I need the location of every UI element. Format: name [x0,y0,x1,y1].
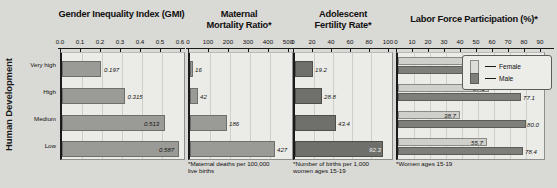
x-tick-label-mm-0: 0 [186,38,189,45]
panel-title-gmi: Gender Inequality Index (GMI) [58,9,185,20]
legend-swatch-female [470,60,479,74]
x-tick-label-mm-2: 200 [223,38,233,45]
x-tick-label-lf-7: 70 [505,38,512,45]
bar-value-maternal-mortality-medium: 186 [229,120,239,127]
panel-maternal-mortality-ratio: Maternal Mortality Ratio* 0 100 200 300 … [186,0,292,188]
bar-value-gmi-high: 0.315 [128,93,143,100]
legend: Female Male [462,55,552,90]
bar-labor-force-male-low [398,147,523,155]
bar-value-adolescent-fertility-very-high: 19.2 [315,66,327,73]
x-tick-label-lf-8: 80 [521,38,528,45]
legend-dash-female-icon [485,66,496,67]
x-tick-label-lf-3: 30 [441,38,448,45]
bar-labor-force-male-high [398,93,521,101]
bar-value-gmi-medium: 0.513 [144,120,159,127]
x-tick-label-lf-6: 60 [489,38,496,45]
bar-value-gmi-low: 0.587 [159,146,174,153]
bar-adolescent-fertility-medium [295,115,336,131]
plot-area-gmi: 0.197 0.315 0.513 0.587 [60,52,185,160]
panel-title-labor-force-text: Labor Force Participation (%)* [410,14,537,24]
x-tick-label-af-0: 0 [291,38,294,45]
panel-title-maternal-mortality-line2: Mortality Ratio* [186,20,292,31]
plot-area-maternal-mortality: 16 42 186 427 [188,52,293,160]
bar-gmi-very-high [62,61,101,77]
bar-value-gmi-very-high: 0.197 [104,66,119,73]
legend-dash-male-icon [485,78,496,79]
panel-title-maternal-mortality: Maternal Mortality Ratio* [186,9,292,30]
bar-value-adolescent-fertility-medium: 43.4 [338,120,350,127]
bar-adolescent-fertility-very-high [295,61,313,77]
panel-labor-force-participation: Labor Force Participation (%)* 0 10 20 3… [394,0,554,188]
bar-maternal-mortality-very-high [190,61,193,77]
legend-label-male: Male [499,75,513,82]
bar-value-maternal-mortality-low: 427 [277,146,287,153]
x-axis-line-labor-force [394,48,554,49]
x-tick-label-mm-3: 300 [243,38,253,45]
bar-maternal-mortality-medium [190,115,227,131]
legend-item-female: Female [485,63,521,70]
y-axis-tick-low: Low [45,142,56,149]
x-tick-label-gmi-3: 0.3 [116,38,125,45]
legend-item-male: Male [485,75,513,82]
y-axis-group-label: Human Development [0,48,16,160]
x-axis-line-gmi [58,48,185,49]
bar-value-labor-force-male-high: 77.1 [523,94,535,101]
x-tick-label-gmi-0: 0.0 [56,38,65,45]
bar-adolescent-fertility-high [295,88,322,104]
panel-title-adolescent-fertility-line1: Adolescent [291,9,395,20]
bar-value-maternal-mortality-very-high: 16 [195,66,202,73]
chart-figure: Human Development Very high High Medium … [0,0,557,188]
bar-maternal-mortality-high [190,88,198,104]
bar-value-labor-force-female-low: 55.7 [471,139,483,146]
bar-value-labor-force-female-medium: 38.7 [444,112,456,119]
y-axis-tick-medium: Medium [34,115,56,122]
legend-label-female: Female [499,63,521,70]
footnote-maternal-mortality: *Maternal deaths per 100,000 live births [188,160,270,175]
x-tick-label-af-5: 100 [383,38,393,45]
x-tick-label-gmi-6: 0.6 [176,38,185,45]
x-axis-line-maternal-mortality [186,48,292,49]
bar-value-maternal-mortality-high: 42 [200,93,207,100]
x-tick-label-af-2: 40 [328,38,335,45]
x-tick-label-lf-4: 40 [457,38,464,45]
x-tick-label-gmi-5: 0.5 [156,38,165,45]
panel-adolescent-fertility-rate: Adolescent Fertility Rate* 0 20 40 60 80… [291,0,395,188]
x-tick-label-lf-9: 90 [537,38,544,45]
x-tick-label-af-1: 20 [309,38,316,45]
y-axis-tick-very-high: Very high [30,61,56,68]
legend-swatch-male [470,73,479,84]
x-tick-label-gmi-4: 0.4 [136,38,145,45]
y-axis-group-label-text: Human Development [3,58,14,151]
panel-title-adolescent-fertility: Adolescent Fertility Rate* [291,9,395,30]
x-tick-label-af-4: 80 [366,38,373,45]
panel-gender-inequality-index: Gender Inequality Index (GMI) 0.0 0.1 0.… [58,0,185,188]
bar-labor-force-male-medium [398,120,526,128]
plot-area-adolescent-fertility: 19.2 28.8 43.4 92.3 [293,52,393,160]
panel-title-labor-force: Labor Force Participation (%)* [394,14,554,25]
panel-title-adolescent-fertility-line2: Fertility Rate* [291,20,395,31]
footnote-labor-force: *Women ages 15-19 [396,160,452,167]
x-tick-label-mm-4: 400 [263,38,273,45]
legend-swatch-group [470,60,479,84]
bar-value-labor-force-male-medium: 80.0 [527,121,539,128]
x-tick-label-lf-2: 20 [425,38,432,45]
bar-value-adolescent-fertility-high: 28.8 [324,93,336,100]
bar-gmi-high [62,88,125,104]
bar-maternal-mortality-low [190,141,275,157]
y-axis-tick-high: High [43,88,56,95]
panel-title-maternal-mortality-line1: Maternal [186,9,292,20]
x-tick-label-lf-0: 0 [394,38,397,45]
x-tick-label-gmi-2: 0.2 [96,38,105,45]
bar-value-adolescent-fertility-low: 92.3 [369,146,381,153]
footnote-adolescent-fertility: *Number of births per 1,000 women ages 1… [293,160,369,175]
x-tick-label-mm-1: 100 [203,38,213,45]
x-axis-line-adolescent-fertility [291,48,395,49]
y-axis-category-labels: Very high High Medium Low [15,54,58,158]
x-tick-label-lf-5: 50 [473,38,480,45]
x-tick-label-lf-1: 10 [409,38,416,45]
x-tick-label-af-3: 60 [347,38,354,45]
bar-value-labor-force-male-low: 78.4 [525,148,537,155]
x-tick-label-gmi-1: 0.1 [76,38,85,45]
